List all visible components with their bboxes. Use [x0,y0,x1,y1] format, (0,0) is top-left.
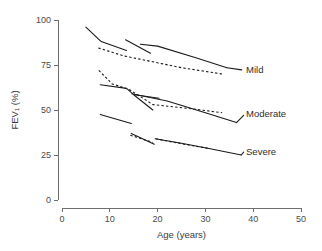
label-leader-lines [227,68,244,155]
moderate-trend-line [99,70,222,112]
mild-leader [227,68,242,70]
data-series [86,27,241,155]
axes: 025507510001020304050 [36,15,306,224]
moderate-cohort-line [132,94,237,123]
fev1-age-line-chart: 025507510001020304050 MildModerateSevere… [0,0,322,251]
y-tick-label: 75 [41,60,51,70]
x-tick-label: 40 [248,214,258,224]
mild-cohort-line [140,44,227,67]
x-tick-label: 20 [153,214,163,224]
series-label-severe: Severe [246,146,276,157]
series-label-mild: Mild [246,64,263,75]
mild-cohort-line [126,40,151,54]
severe-cohort-line [131,133,154,144]
y-tick-label: 25 [41,150,51,160]
moderate-leader [236,115,243,122]
severe-leader [241,152,243,155]
x-tick-label: 10 [105,214,115,224]
x-axis-title: Age (years) [157,229,206,240]
mild-trend-line [98,48,222,74]
series-label-moderate: Moderate [246,108,286,119]
x-tick-label: 0 [59,214,64,224]
y-axis-title: FEV₁ (%) [9,90,20,129]
y-tick-label: 0 [46,195,51,205]
x-tick-label: 50 [296,214,306,224]
y-tick-label: 100 [36,15,51,25]
chart-figure: 025507510001020304050 MildModerateSevere… [0,0,322,251]
severe-cohort-line [100,115,131,124]
y-tick-label: 50 [41,105,51,115]
series-annotations: MildModerateSevere [246,64,286,157]
mild-cohort-line [86,27,127,50]
x-tick-label: 30 [200,214,210,224]
